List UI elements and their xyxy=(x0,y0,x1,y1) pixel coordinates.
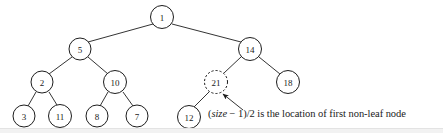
node-label: 12 xyxy=(185,113,194,123)
node-label: 14 xyxy=(246,45,256,55)
page-bottom-band xyxy=(0,128,443,133)
edge-14-to-18 xyxy=(259,57,280,74)
node-label: 3 xyxy=(22,112,27,122)
edge-1-to-14 xyxy=(172,24,241,42)
tree-node-3: 3 xyxy=(13,105,35,127)
node-label: 1 xyxy=(160,13,165,23)
tree-node-5: 5 xyxy=(69,38,91,60)
annotation-caption: (size − 1)/2 is the location of first no… xyxy=(208,108,406,119)
tree-node-7: 7 xyxy=(126,105,148,127)
node-label: 5 xyxy=(78,45,83,55)
node-label: 8 xyxy=(95,112,100,122)
caption-suffix: − 1)/2 is the location of first non-leaf… xyxy=(227,108,406,119)
edge-14-to-21 xyxy=(224,57,241,73)
edge-5-to-2 xyxy=(49,57,72,74)
node-label: 7 xyxy=(135,112,140,122)
edge-10-to-8 xyxy=(100,92,108,106)
edge-2-to-11 xyxy=(49,92,57,105)
tree-node-8: 8 xyxy=(86,105,108,127)
tree-node-11: 11 xyxy=(49,105,72,128)
edge-10-to-7 xyxy=(123,92,133,106)
edge-21-to-12 xyxy=(194,92,209,107)
tree-node-2: 2 xyxy=(31,71,53,93)
tree-node-1: 1 xyxy=(151,6,174,29)
caption-italic-term: size xyxy=(211,108,227,119)
edge-5-to-10 xyxy=(88,57,108,74)
tree-node-21-highlighted: 21 xyxy=(205,71,228,94)
tree-node-12: 12 xyxy=(178,106,201,129)
node-label: 2 xyxy=(40,78,45,88)
edge-1-to-5 xyxy=(88,24,153,42)
tree-node-18: 18 xyxy=(277,71,300,94)
node-label: 10 xyxy=(111,78,121,88)
node-label: 21 xyxy=(212,78,221,88)
tree-node-10: 10 xyxy=(104,71,127,94)
node-label: 11 xyxy=(56,112,65,122)
tree-node-14: 14 xyxy=(239,38,262,61)
node-label: 18 xyxy=(284,78,294,88)
edge-2-to-3 xyxy=(28,92,36,106)
